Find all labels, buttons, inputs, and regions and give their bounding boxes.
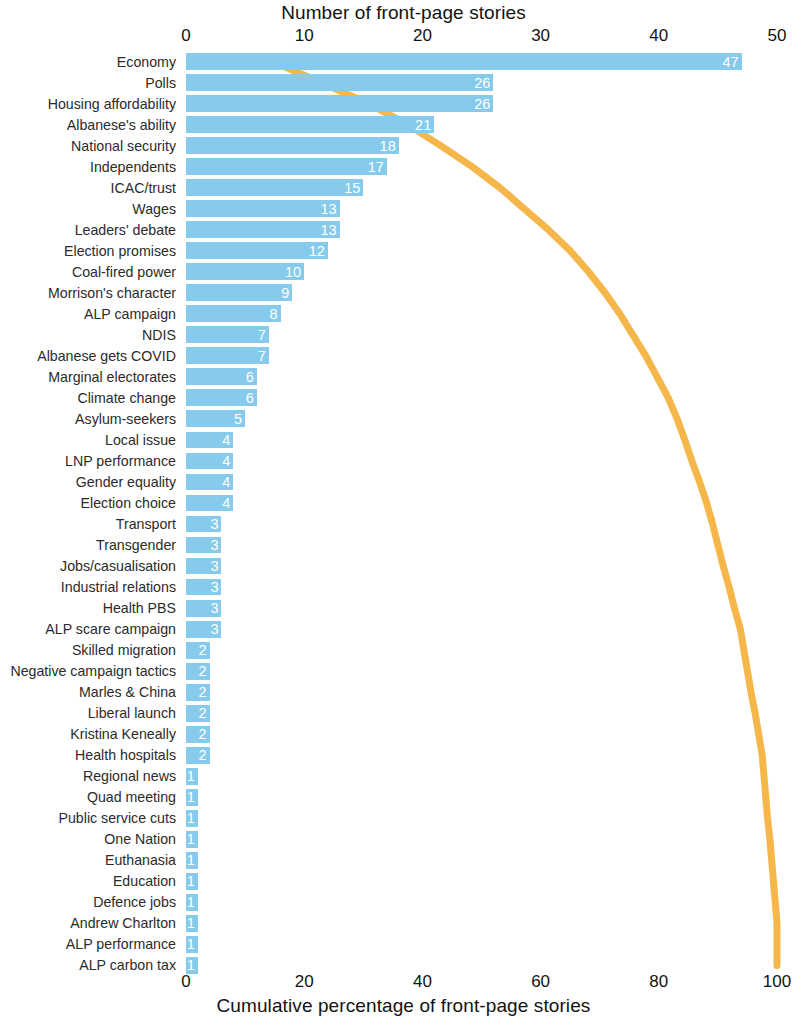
bar-value-label: 12 [186,243,325,258]
category-label: Negative campaign tactics [0,664,181,678]
category-label: Kristina Keneally [0,727,181,741]
category-label: ALP scare campaign [0,622,181,636]
bar-value-label: 1 [186,937,195,952]
axis-tick-label: 0 [181,26,190,46]
category-label: Defence jobs [0,895,181,909]
category-label: Climate change [0,391,181,405]
bar-value-label: 1 [186,853,195,868]
bar-value-label: 1 [186,874,195,889]
category-label: NDIS [0,328,181,342]
axis-tick-label: 20 [295,972,314,992]
bar-value-label: 6 [186,391,254,406]
bar-value-label: 15 [186,180,360,195]
bar-value-label: 3 [186,580,218,595]
bar-value-label: 2 [186,748,207,763]
category-label: Euthanasia [0,853,181,867]
category-label: Housing affordability [0,97,181,111]
bottom-axis-title: Cumulative percentage of front-page stor… [0,995,807,1017]
category-label: Asylum-seekers [0,412,181,426]
axis-tick-label: 0 [181,972,190,992]
bar-value-label: 3 [186,601,218,616]
bar-value-label: 7 [186,328,266,343]
bar-value-label: 7 [186,349,266,364]
category-label: Coal-fired power [0,265,181,279]
bar-value-label: 3 [186,517,218,532]
category-label: Health hospitals [0,748,181,762]
bar-value-label: 2 [186,706,207,721]
category-label: ALP performance [0,937,181,951]
bar-value-label: 2 [186,727,207,742]
category-label: Andrew Charlton [0,916,181,930]
bar-value-label: 18 [186,138,396,153]
axis-tick-label: 40 [413,972,432,992]
category-label: Wages [0,202,181,216]
bar-value-label: 21 [186,117,431,132]
bar-value-label: 1 [186,790,195,805]
bar-value-label: 13 [186,222,337,237]
bar-value-label: 4 [186,433,230,448]
bar-value-label: 1 [186,895,195,910]
axis-tick-label: 10 [295,26,314,46]
category-label: Public service cuts [0,811,181,825]
bar-value-label: 5 [186,412,242,427]
bar-value-label: 26 [186,96,490,111]
bar-value-label: 8 [186,307,278,322]
category-label: ALP campaign [0,307,181,321]
category-label: Local issue [0,433,181,447]
bar-value-label: 4 [186,496,230,511]
bar-value-label: 47 [186,54,739,69]
bar-value-label: 1 [186,958,195,973]
category-label: Leaders' debate [0,223,181,237]
category-axis-labels: EconomyPollsHousing affordabilityAlbanes… [0,51,181,976]
bar-value-label: 3 [186,559,218,574]
bar-value-label: 10 [186,264,301,279]
category-label: Transport [0,517,181,531]
bar-value-label: 4 [186,454,230,469]
category-label: Albanese gets COVID [0,349,181,363]
category-label: Polls [0,76,181,90]
category-label: Jobs/casualisation [0,559,181,573]
bar-value-label: 1 [186,832,195,847]
category-label: Gender equality [0,475,181,489]
axis-tick-label: 20 [413,26,432,46]
category-label: Quad meeting [0,790,181,804]
bar-value-label: 17 [186,159,384,174]
axis-tick-label: 100 [763,972,791,992]
category-label: Economy [0,55,181,69]
top-axis-title: Number of front-page stories [0,2,807,24]
category-label: Skilled migration [0,643,181,657]
bar-value-label: 1 [186,811,195,826]
category-label: Morrison's character [0,286,181,300]
category-label: Education [0,874,181,888]
bottom-axis-ticks: 020406080100 [0,972,807,990]
bar-value-label: 26 [186,75,490,90]
plot-area: 4726262118171513131210987766544443333332… [186,51,777,976]
bar-value-label: 2 [186,643,207,658]
top-axis-ticks: 01020304050 [0,26,807,44]
category-label: LNP performance [0,454,181,468]
category-label: One Nation [0,832,181,846]
bar-value-label: 1 [186,916,195,931]
cumulative-percentage-polyline [273,62,777,966]
axis-tick-label: 60 [531,972,550,992]
bar-value-label: 2 [186,685,207,700]
pareto-chart: Number of front-page stories 01020304050… [0,0,807,1025]
bar-value-label: 4 [186,475,230,490]
category-label: Regional news [0,769,181,783]
category-label: National security [0,139,181,153]
bar-value-label: 3 [186,538,218,553]
axis-tick-label: 40 [649,26,668,46]
category-label: Transgender [0,538,181,552]
category-label: Election promises [0,244,181,258]
bar-value-label: 9 [186,286,289,301]
category-label: Albanese's ability [0,118,181,132]
axis-tick-label: 80 [649,972,668,992]
axis-tick-label: 30 [531,26,550,46]
bar-value-label: 1 [186,769,195,784]
category-label: Marginal electorates [0,370,181,384]
category-label: Health PBS [0,601,181,615]
category-label: ALP carbon tax [0,958,181,972]
category-label: Industrial relations [0,580,181,594]
axis-tick-label: 50 [768,26,787,46]
category-label: Marles & China [0,685,181,699]
